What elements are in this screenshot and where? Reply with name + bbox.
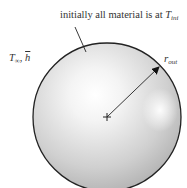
highlight-right <box>142 88 178 132</box>
heat-transfer-coeff-symbol: h <box>25 52 30 63</box>
temperature-subscript: ini <box>171 14 178 22</box>
environment-label: T∞, h <box>9 52 30 65</box>
radius-subscript: out <box>168 58 177 66</box>
initial-condition-label: initially all material is at Tini <box>60 9 179 22</box>
initial-condition-text: initially all material is at <box>60 9 165 20</box>
radius-label: rout <box>164 52 177 66</box>
diagram-canvas <box>0 0 187 188</box>
